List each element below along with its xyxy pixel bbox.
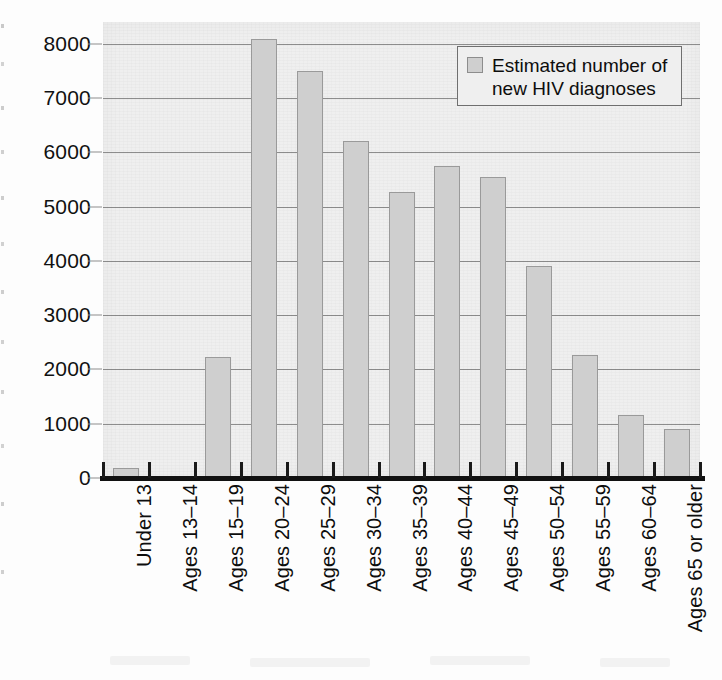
- bar: [480, 177, 506, 478]
- y-axis: 010002000300040005000600070008000: [0, 0, 103, 680]
- legend-swatch-icon: [467, 57, 483, 73]
- x-axis-tick-mark: [607, 462, 610, 478]
- legend-label: Estimated number of new HIV diagnoses: [492, 54, 667, 100]
- x-axis-tick-mark: [148, 462, 151, 478]
- x-axis-tick-mark: [469, 462, 472, 478]
- x-axis-tick-mark: [194, 462, 197, 478]
- y-axis-tick-label: 1000: [43, 412, 91, 436]
- x-axis-tick-mark: [240, 462, 243, 478]
- x-axis-tick-label: Ages 55–59: [592, 484, 615, 592]
- y-axis-tick-label: 7000: [43, 86, 91, 110]
- bar-chart-figure: 010002000300040005000600070008000 Under …: [0, 0, 722, 680]
- bar: [251, 39, 277, 478]
- x-axis-tick-label: Ages 50–54: [546, 484, 569, 592]
- y-axis-tick-label: 2000: [43, 357, 91, 381]
- bar: [526, 266, 552, 478]
- y-axis-tick-label: 8000: [43, 32, 91, 56]
- x-axis-tick-label: Ages 65 or older: [684, 484, 707, 632]
- y-axis-tick-mark: [88, 423, 102, 424]
- x-axis-tick-label: Under 13: [133, 484, 156, 567]
- y-axis-tick-mark: [88, 152, 102, 153]
- x-axis-tick-mark: [515, 462, 518, 478]
- legend-label-line2: new HIV diagnoses: [492, 78, 656, 99]
- x-axis-tick-label: Ages 30–34: [363, 484, 386, 592]
- x-axis-tick-mark: [423, 462, 426, 478]
- chart-legend: Estimated number of new HIV diagnoses: [457, 46, 682, 106]
- x-axis-tick-mark: [561, 462, 564, 478]
- x-axis-tick-mark: [286, 462, 289, 478]
- x-axis-tick-mark: [332, 462, 335, 478]
- x-axis-labels-group: Under 13Ages 13–14Ages 15–19Ages 20–24Ag…: [103, 484, 700, 680]
- bar: [389, 192, 415, 478]
- bar: [205, 357, 231, 478]
- bar: [297, 71, 323, 478]
- legend-label-line1: Estimated number of: [492, 55, 667, 76]
- x-axis-tick-label: Ages 60–64: [638, 484, 661, 592]
- x-axis-tick-label: Ages 15–19: [225, 484, 248, 592]
- y-axis-tick-label: 4000: [43, 249, 91, 273]
- bar: [618, 415, 644, 478]
- y-axis-tick-mark: [88, 98, 102, 99]
- x-axis-tick-mark: [699, 462, 702, 478]
- x-axis-tick-mark: [102, 462, 105, 478]
- x-axis-tick-label: Ages 20–24: [271, 484, 294, 592]
- x-axis-tick-label: Ages 13–14: [179, 484, 202, 592]
- bar: [664, 429, 690, 478]
- y-axis-tick-mark: [88, 43, 102, 44]
- x-axis-tick-label: Ages 40–44: [454, 484, 477, 592]
- bar: [343, 141, 369, 478]
- x-axis-baseline: [100, 476, 705, 481]
- y-axis-tick-label: 3000: [43, 303, 91, 327]
- x-axis-tick-label: Ages 45–49: [500, 484, 523, 592]
- x-axis-tick-mark: [653, 462, 656, 478]
- bar: [572, 355, 598, 478]
- x-axis-tick-mark: [378, 462, 381, 478]
- y-axis-tick-label: 6000: [43, 140, 91, 164]
- y-axis-tick-mark: [88, 369, 102, 370]
- y-axis-tick-mark: [88, 260, 102, 261]
- bar: [434, 166, 460, 478]
- y-axis-tick-label: 5000: [43, 195, 91, 219]
- x-axis-tick-label: Ages 35–39: [409, 484, 432, 592]
- y-axis-tick-mark: [88, 315, 102, 316]
- x-axis-tick-label: Ages 25–29: [317, 484, 340, 592]
- y-axis-tick-mark: [88, 206, 102, 207]
